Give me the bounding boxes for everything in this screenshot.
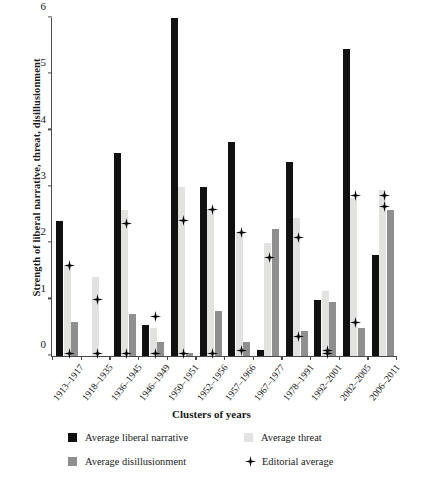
bar-group <box>286 18 308 356</box>
editorial-average-marker <box>293 331 304 342</box>
bar-group <box>56 18 78 356</box>
bar-narrative <box>343 49 350 356</box>
legend-label-narrative: Average liberal narrative <box>85 432 188 443</box>
x-tick-mark <box>253 356 254 360</box>
y-tick-label: 6 <box>41 0 53 12</box>
editorial-average-marker <box>150 311 161 322</box>
legend-label-disillusionment: Average disillusionment <box>85 456 186 467</box>
bar-narrative <box>286 162 293 356</box>
bar-group <box>200 18 222 356</box>
legend-item-editorial: Editorial average <box>244 456 398 467</box>
y-tick-mark <box>48 242 52 243</box>
editorial-average-marker <box>64 260 75 271</box>
editorial-average-marker <box>178 215 189 226</box>
bar-threat <box>121 210 128 356</box>
bar-threat <box>92 277 99 356</box>
bar-threat <box>350 198 357 356</box>
bar-disillusionment <box>387 210 394 356</box>
bar-threat <box>236 232 243 356</box>
bar-threat <box>178 187 185 356</box>
legend-item-narrative: Average liberal narrative <box>68 432 244 443</box>
x-tick-mark <box>281 356 282 360</box>
bar-narrative <box>142 325 149 356</box>
bar-disillusionment <box>358 328 365 356</box>
bar-narrative <box>314 300 321 356</box>
bar-group <box>114 18 136 356</box>
bar-narrative <box>228 142 235 356</box>
y-tick-label: 1 <box>41 282 53 294</box>
threat-swatch <box>244 433 253 442</box>
chart-figure: Strength of liberal narrative, threat, d… <box>0 0 423 486</box>
y-tick-label: 4 <box>41 113 53 125</box>
x-tick-mark <box>195 356 196 360</box>
editorial-average-marker <box>92 294 103 305</box>
editorial-average-marker <box>293 232 304 243</box>
bar-narrative <box>171 18 178 356</box>
bar-narrative <box>200 187 207 356</box>
x-axis-title: Clusters of years <box>0 408 423 420</box>
editorial-average-marker <box>207 348 218 359</box>
x-tick-mark <box>224 356 225 360</box>
x-tick-mark <box>396 356 397 360</box>
x-tick-mark <box>138 356 139 360</box>
bar-group <box>171 18 193 356</box>
x-tick-mark <box>109 356 110 360</box>
bar-group <box>314 18 336 356</box>
bar-group <box>142 18 164 356</box>
bar-group <box>372 18 394 356</box>
bar-group <box>257 18 279 356</box>
x-tick-mark <box>52 356 53 360</box>
bar-threat <box>207 210 214 356</box>
legend-item-threat: Average threat <box>244 432 398 443</box>
editorial-marker-icon <box>244 456 257 467</box>
y-tick-mark <box>48 185 52 186</box>
y-tick-mark <box>48 73 52 74</box>
editorial-average-marker <box>121 348 132 359</box>
bar-threat <box>64 266 71 356</box>
editorial-average-marker <box>264 252 275 263</box>
bar-narrative <box>114 153 121 356</box>
bar-group <box>85 18 107 356</box>
editorial-average-marker <box>350 190 361 201</box>
disillusionment-swatch <box>68 457 77 466</box>
y-tick-label: 5 <box>41 56 53 68</box>
editorial-average-marker <box>236 227 247 238</box>
bar-narrative <box>56 221 63 356</box>
x-tick-mark <box>339 356 340 360</box>
x-tick-mark <box>81 356 82 360</box>
editorial-average-marker <box>92 348 103 359</box>
legend-label-editorial: Editorial average <box>262 456 333 467</box>
editorial-average-marker <box>350 317 361 328</box>
y-tick-mark <box>48 298 52 299</box>
x-tick-mark <box>310 356 311 360</box>
bar-narrative <box>372 255 379 356</box>
editorial-average-marker <box>150 348 161 359</box>
editorial-average-marker <box>207 204 218 215</box>
editorial-average-marker <box>121 218 132 229</box>
legend-label-threat: Average threat <box>261 432 322 443</box>
bar-narrative <box>257 350 264 356</box>
editorial-average-marker <box>379 201 390 212</box>
editorial-average-marker <box>322 345 333 356</box>
legend-item-disillusionment: Average disillusionment <box>68 456 244 467</box>
bar-group <box>228 18 250 356</box>
y-tick-mark <box>48 16 52 17</box>
y-tick-label: 0 <box>41 338 53 350</box>
editorial-average-marker <box>178 348 189 359</box>
y-tick-label: 2 <box>41 225 53 237</box>
x-tick-mark <box>167 356 168 360</box>
y-tick-mark <box>48 129 52 130</box>
editorial-average-marker <box>236 345 247 356</box>
bar-group <box>343 18 365 356</box>
bar-threat <box>379 190 386 356</box>
plot-area: 0123456 <box>52 18 396 356</box>
y-tick-label: 3 <box>41 169 53 181</box>
editorial-average-marker <box>379 190 390 201</box>
x-tick-mark <box>367 356 368 360</box>
editorial-average-marker <box>64 348 75 359</box>
chart-legend: Average liberal narrative Average threat… <box>68 432 398 467</box>
bar-disillusionment <box>272 229 279 356</box>
narrative-swatch <box>68 433 77 442</box>
